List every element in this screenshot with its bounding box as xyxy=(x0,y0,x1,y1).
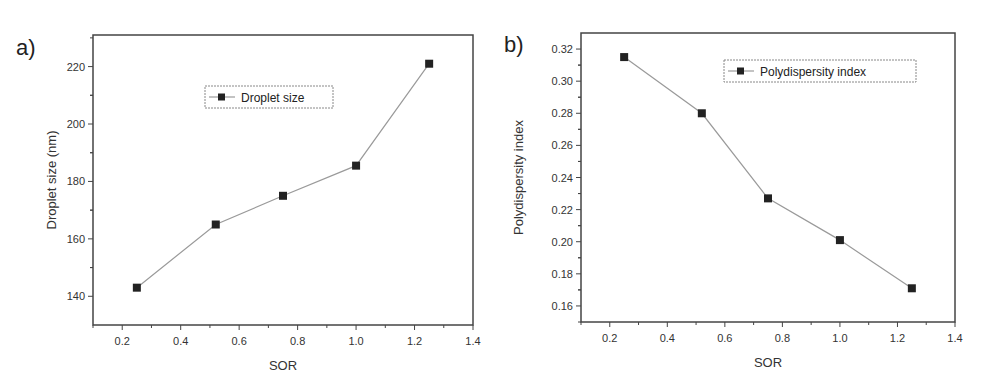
data-point-marker xyxy=(133,284,141,292)
legend-label: Droplet size xyxy=(241,91,305,105)
data-point-marker xyxy=(352,162,360,170)
x-tick-label: 0.8 xyxy=(775,332,790,344)
figure: a)0.20.40.60.81.01.21.4140160180200220SO… xyxy=(0,0,981,383)
y-tick-label: 0.30 xyxy=(552,75,573,87)
data-point-marker xyxy=(620,53,628,61)
y-tick-label: 0.28 xyxy=(552,107,573,119)
x-tick-label: 0.4 xyxy=(173,335,188,347)
y-axis-title: Polydispersity index xyxy=(511,120,526,235)
data-point-marker xyxy=(908,284,916,292)
x-tick-label: 1.4 xyxy=(947,332,962,344)
x-tick-label: 0.2 xyxy=(602,332,617,344)
y-tick-label: 200 xyxy=(67,118,85,130)
y-tick-label: 140 xyxy=(67,290,85,302)
data-point-marker xyxy=(212,221,220,229)
x-tick-label: 1.0 xyxy=(832,332,847,344)
data-point-marker xyxy=(764,194,772,202)
y-tick-label: 0.16 xyxy=(552,300,573,312)
x-tick-label: 0.4 xyxy=(660,332,675,344)
y-tick-label: 0.22 xyxy=(552,204,573,216)
y-tick-label: 180 xyxy=(67,175,85,187)
y-tick-label: 220 xyxy=(67,61,85,73)
y-tick-label: 0.20 xyxy=(552,236,573,248)
panel-label: b) xyxy=(504,32,524,57)
legend-marker-icon xyxy=(218,94,225,101)
plot-frame xyxy=(93,35,473,325)
x-tick-label: 0.2 xyxy=(115,335,130,347)
panel-label: a) xyxy=(16,35,36,60)
chart-panel-b: b)0.20.40.60.81.01.21.40.160.180.200.220… xyxy=(504,32,963,370)
x-axis-title: SOR xyxy=(754,355,782,370)
data-point-marker xyxy=(836,236,844,244)
data-line xyxy=(624,57,912,288)
chart-panel-a: a)0.20.40.60.81.01.21.4140160180200220SO… xyxy=(16,35,481,373)
data-point-marker xyxy=(698,109,706,117)
x-tick-label: 0.6 xyxy=(717,332,732,344)
x-tick-label: 1.2 xyxy=(407,335,422,347)
data-point-marker xyxy=(425,60,433,68)
y-tick-label: 0.26 xyxy=(552,139,573,151)
x-tick-label: 1.0 xyxy=(348,335,363,347)
y-tick-label: 160 xyxy=(67,233,85,245)
x-tick-label: 0.8 xyxy=(290,335,305,347)
x-tick-label: 0.6 xyxy=(232,335,247,347)
x-axis-title: SOR xyxy=(269,358,297,373)
x-tick-label: 1.2 xyxy=(890,332,905,344)
legend-label: Polydispersity index xyxy=(760,65,866,79)
y-axis-title: Droplet size (nm) xyxy=(44,131,59,230)
legend-marker-icon xyxy=(737,68,744,75)
y-tick-label: 0.24 xyxy=(552,172,573,184)
data-point-marker xyxy=(279,192,287,200)
x-tick-label: 1.4 xyxy=(465,335,480,347)
y-tick-label: 0.32 xyxy=(552,43,573,55)
y-tick-label: 0.18 xyxy=(552,268,573,280)
